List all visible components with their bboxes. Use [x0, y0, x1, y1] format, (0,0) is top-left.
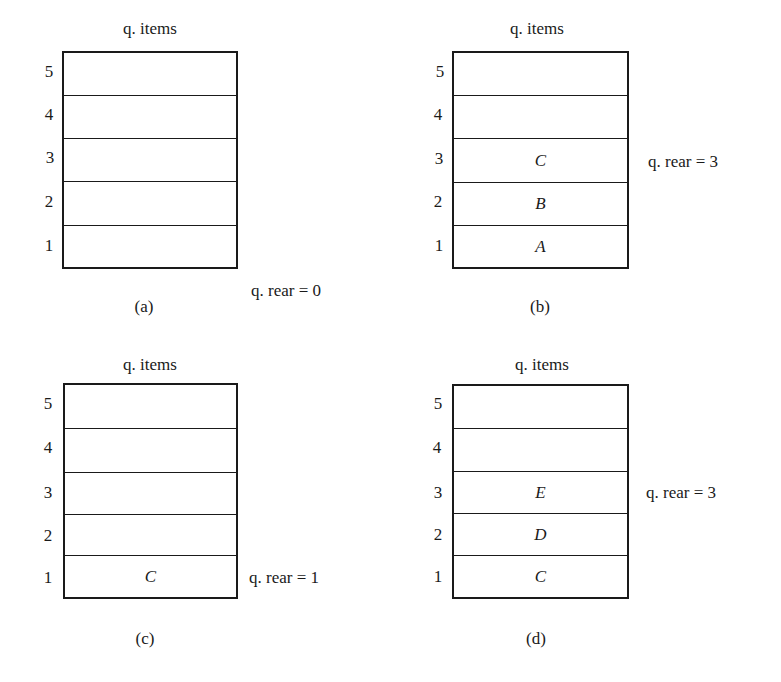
- slot-index-5: 5: [433, 62, 447, 82]
- items-array: C B A: [452, 51, 629, 269]
- array-slot-4: [454, 428, 627, 472]
- slot-index-5: 5: [42, 62, 56, 82]
- array-slot-5: [454, 386, 627, 429]
- array-slot-4: [65, 428, 236, 473]
- slot-index-3: 3: [431, 483, 445, 503]
- slot-index-1: 1: [41, 568, 55, 588]
- slot-index-2: 2: [41, 526, 55, 546]
- slot-index-1: 1: [432, 236, 446, 256]
- queue-panel-b: q. items C B A 5 4 3 2 1 q. rear = 3 (b): [390, 0, 781, 340]
- array-slot-4: [454, 95, 627, 139]
- items-array: [62, 51, 238, 269]
- array-slot-4: [64, 95, 236, 138]
- rear-label: q. rear = 0: [251, 281, 321, 301]
- slot-index-4: 4: [42, 105, 56, 125]
- panel-caption: (a): [135, 297, 154, 317]
- rear-label: q. rear = 3: [646, 483, 716, 503]
- slot-index-2: 2: [431, 192, 445, 212]
- queue-panel-d: q. items E D C 5 4 3 2 1 q. rear = 3 (d): [390, 340, 781, 682]
- array-slot-3: E: [454, 471, 627, 514]
- array-slot-1: A: [454, 225, 627, 267]
- rear-label: q. rear = 3: [648, 152, 718, 172]
- items-array: E D C: [452, 384, 629, 599]
- slot-index-4: 4: [431, 105, 445, 125]
- slot-index-3: 3: [432, 149, 446, 169]
- array-slot-2: D: [454, 513, 627, 556]
- slot-index-4: 4: [41, 438, 55, 458]
- array-slot-1: C: [454, 555, 627, 597]
- slot-index-4: 4: [430, 438, 444, 458]
- array-slot-2: [64, 181, 236, 225]
- slot-index-2: 2: [431, 525, 445, 545]
- slot-index-3: 3: [41, 483, 55, 503]
- queue-panel-c: q. items C 5 4 3 2 1 q. rear = 1 (c): [0, 340, 390, 682]
- array-title: q. items: [515, 355, 569, 375]
- array-title: q. items: [123, 19, 177, 39]
- panel-caption: (d): [526, 629, 546, 649]
- array-title: q. items: [123, 355, 177, 375]
- array-slot-5: [64, 53, 236, 96]
- array-slot-1: [64, 225, 236, 267]
- slot-index-5: 5: [431, 394, 445, 414]
- array-slot-5: [65, 385, 236, 429]
- items-array: C: [63, 383, 238, 599]
- slot-index-5: 5: [41, 394, 55, 414]
- array-slot-3: C: [454, 138, 627, 182]
- array-slot-2: B: [454, 182, 627, 225]
- array-slot-2: [65, 514, 236, 556]
- slot-index-2: 2: [42, 192, 56, 212]
- array-slot-3: [64, 138, 236, 181]
- slot-index-3: 3: [43, 148, 57, 168]
- array-title: q. items: [510, 19, 564, 39]
- panel-caption: (b): [530, 297, 550, 317]
- slot-index-1: 1: [42, 236, 56, 256]
- slot-index-1: 1: [431, 567, 445, 587]
- array-slot-3: [65, 472, 236, 514]
- queue-panel-a: q. items 5 4 3 2 1 q. rear = 0 (a): [0, 0, 390, 340]
- panel-caption: (c): [136, 629, 155, 649]
- rear-label: q. rear = 1: [249, 568, 319, 588]
- array-slot-1: C: [65, 555, 236, 597]
- array-slot-5: [454, 53, 627, 96]
